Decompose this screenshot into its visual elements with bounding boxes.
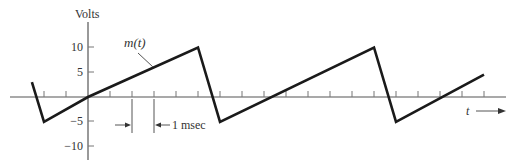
y-tick-label-neg10: −10 xyxy=(64,139,83,153)
curve-leader-line xyxy=(138,53,153,67)
y-tick-label-10: 10 xyxy=(71,40,83,54)
x-ticks xyxy=(44,91,484,97)
arrowhead-right-icon xyxy=(125,123,131,128)
arrowhead-left-icon xyxy=(155,123,161,128)
waveform-figure: Volts 10 5 −5 −10 m(t) 1 msec t xyxy=(0,0,515,165)
x-axis-label: t xyxy=(466,104,470,118)
sawtooth-waveform xyxy=(32,48,484,122)
time-arrowhead-icon xyxy=(498,108,506,114)
interval-label: 1 msec xyxy=(172,118,206,132)
y-axis-label: Volts xyxy=(75,7,100,21)
y-tick-label-neg5: −5 xyxy=(70,114,83,128)
interval-annotation: 1 msec xyxy=(115,99,206,133)
y-tick-label-5: 5 xyxy=(77,65,83,79)
curve-label: m(t) xyxy=(124,35,146,50)
